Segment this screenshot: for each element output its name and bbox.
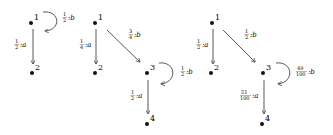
svg-text::b: :b: [308, 68, 315, 76]
graph-1: 1 2 1 2 :b 1 2 :a: [15, 11, 76, 75]
node-4: 4: [145, 114, 155, 126]
edge-3-3-loop: [276, 63, 290, 84]
svg-text:2: 2: [214, 63, 219, 72]
edge-label-1-2: 1 2 :a: [15, 38, 27, 50]
node-1: 1: [93, 13, 103, 25]
edge-1-1-loop: [43, 12, 57, 31]
edge-label-1-3: 3 4 :b: [129, 28, 142, 40]
svg-text:4: 4: [80, 44, 83, 50]
svg-text:2: 2: [15, 44, 18, 50]
svg-text::a: :a: [20, 41, 27, 49]
edge-label-3-4: 51 100 :a: [240, 89, 259, 101]
svg-text:2: 2: [245, 34, 248, 40]
svg-text:3: 3: [266, 63, 271, 72]
svg-text:2: 2: [181, 71, 184, 77]
svg-text:4: 4: [150, 114, 155, 123]
edge-label-1-2: 1 4 :a: [80, 38, 92, 50]
edge-label-1-3: 1 2 :b: [245, 28, 258, 40]
node-2: 2: [209, 63, 219, 75]
svg-text:2: 2: [35, 63, 40, 72]
edge-3-3-loop: [159, 63, 173, 84]
node-3: 3: [145, 63, 155, 75]
svg-text:2: 2: [63, 17, 66, 23]
svg-text:100: 100: [240, 95, 250, 101]
edge-label-1-1: 1 2 :b: [63, 11, 76, 23]
edge-label-1-2: 1 2 :a: [197, 38, 209, 50]
svg-text:1: 1: [34, 13, 39, 22]
svg-text:4: 4: [265, 114, 270, 123]
edge-label-3-3: 49 100 :b: [296, 65, 315, 77]
node-2: 2: [93, 63, 103, 75]
svg-text:1: 1: [215, 13, 220, 22]
edge-label-3-3: 1 2 :b: [181, 65, 194, 77]
svg-text::a: :a: [85, 41, 92, 49]
graph-3: 1 2 3 4 1 2 :a 1 2 :b: [197, 13, 316, 126]
node-4: 4: [260, 114, 270, 126]
svg-text:2: 2: [197, 44, 200, 50]
svg-text::b: :b: [186, 68, 193, 76]
svg-text::a: :a: [202, 41, 209, 49]
edge-label-3-4: 1 2 :a: [131, 89, 143, 101]
svg-text:2: 2: [131, 95, 134, 101]
svg-text::b: :b: [68, 14, 75, 22]
svg-text:2: 2: [98, 63, 103, 72]
node-1: 1: [29, 13, 39, 25]
node-1: 1: [210, 13, 220, 25]
svg-text::b: :b: [134, 31, 141, 39]
node-3: 3: [261, 63, 271, 75]
svg-text::a: :a: [252, 92, 259, 100]
node-2: 2: [30, 63, 40, 75]
svg-text::a: :a: [136, 92, 143, 100]
svg-text::b: :b: [250, 31, 257, 39]
svg-text:100: 100: [296, 71, 306, 77]
automata-diagram: 1 2 1 2 :b 1 2 :a 1 2: [0, 0, 333, 135]
svg-text:1: 1: [98, 13, 103, 22]
svg-text:4: 4: [129, 34, 132, 40]
svg-text:3: 3: [150, 63, 155, 72]
graph-2: 1 2 3 4 1 4 :a 3 4 :b: [80, 13, 194, 126]
